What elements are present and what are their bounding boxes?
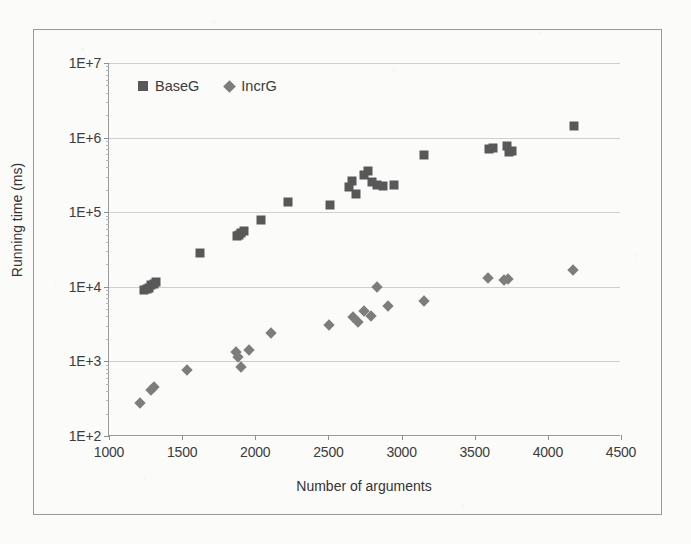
y-tick-minor (106, 160, 109, 161)
data-point-baseg (363, 167, 372, 176)
x-tick-mark (182, 435, 183, 440)
gridline-y (109, 212, 620, 213)
y-tick-minor (106, 102, 109, 103)
data-point-incrg (323, 320, 334, 331)
data-point-baseg (325, 200, 334, 209)
gridline-y (109, 63, 620, 64)
y-tick-minor (106, 70, 109, 71)
x-tick-mark (109, 435, 110, 440)
data-point-baseg (570, 121, 579, 130)
y-tick-minor (106, 400, 109, 401)
x-axis-title: Number of arguments (108, 478, 620, 494)
x-tick-label: 3500 (460, 444, 490, 460)
y-tick-minor (106, 365, 109, 366)
square-marker-icon (138, 81, 148, 91)
y-tick-minor (106, 339, 109, 340)
y-tick-minor (106, 141, 109, 142)
data-point-baseg (257, 216, 266, 225)
x-tick-label: 2000 (240, 444, 270, 460)
y-tick-minor (106, 298, 109, 299)
y-tick-minor (106, 303, 109, 304)
x-tick-mark (548, 435, 549, 440)
gridline-y (109, 361, 620, 362)
y-tick-minor (106, 316, 109, 317)
y-tick-mark (104, 287, 109, 288)
y-tick-minor (106, 167, 109, 168)
y-tick-minor (106, 242, 109, 243)
x-tick-label: 4000 (533, 444, 563, 460)
y-tick-minor (106, 294, 109, 295)
data-point-baseg (284, 198, 293, 207)
legend-entry-incrg: IncrG (225, 78, 276, 94)
gridline-y (109, 138, 620, 139)
diamond-marker-icon (223, 80, 236, 93)
y-tick-minor (106, 373, 109, 374)
data-point-incrg (244, 345, 255, 356)
y-tick-minor (106, 177, 109, 178)
data-point-baseg (239, 226, 248, 235)
data-point-incrg (372, 282, 383, 293)
y-tick-minor (106, 154, 109, 155)
y-tick-mark (104, 138, 109, 139)
y-tick-label: 1E+6 (69, 130, 101, 146)
data-point-baseg (151, 278, 160, 287)
y-tick-minor (106, 80, 109, 81)
data-point-incrg (181, 365, 192, 376)
y-tick-mark (104, 212, 109, 213)
chart-legend: BaseGIncrG (138, 78, 277, 94)
gridline-y (109, 287, 620, 288)
x-tick-label: 2500 (313, 444, 343, 460)
data-point-baseg (347, 176, 356, 185)
y-tick-minor (106, 414, 109, 415)
chart-page: Running time (ms) Number of arguments 1E… (0, 0, 691, 544)
y-tick-label: 1E+5 (69, 204, 101, 220)
data-point-incrg (382, 300, 393, 311)
data-point-baseg (508, 147, 517, 156)
y-tick-label: 1E+7 (69, 55, 101, 71)
y-tick-minor (106, 149, 109, 150)
data-point-baseg (419, 151, 428, 160)
y-tick-minor (106, 66, 109, 67)
x-tick-mark (328, 435, 329, 440)
data-point-baseg (489, 144, 498, 153)
y-tick-minor (106, 251, 109, 252)
y-tick-mark (104, 63, 109, 64)
data-point-incrg (235, 361, 246, 372)
data-point-incrg (135, 397, 146, 408)
x-tick-mark (621, 435, 622, 440)
data-point-incrg (568, 264, 579, 275)
data-point-baseg (379, 181, 388, 190)
y-tick-minor (106, 219, 109, 220)
y-tick-minor (106, 378, 109, 379)
y-tick-minor (106, 93, 109, 94)
x-tick-label: 1500 (167, 444, 197, 460)
y-tick-minor (106, 216, 109, 217)
data-point-incrg (418, 295, 429, 306)
plot-area: 1E+21E+31E+41E+51E+61E+7 100015002000250… (108, 63, 620, 436)
x-tick-label: 3000 (386, 444, 416, 460)
data-point-incrg (482, 273, 493, 284)
data-point-incrg (266, 327, 277, 338)
x-tick-mark (475, 435, 476, 440)
y-tick-mark (104, 361, 109, 362)
x-tick-label: 1000 (94, 444, 124, 460)
y-tick-minor (106, 384, 109, 385)
y-tick-minor (106, 75, 109, 76)
y-tick-minor (106, 115, 109, 116)
y-tick-label: 1E+3 (69, 353, 101, 369)
legend-label: BaseG (155, 78, 199, 94)
legend-label: IncrG (241, 78, 276, 94)
data-point-baseg (390, 181, 399, 190)
y-tick-minor (106, 85, 109, 86)
y-tick-minor (106, 290, 109, 291)
y-tick-minor (106, 309, 109, 310)
y-tick-label: 1E+2 (69, 428, 101, 444)
y-tick-label: 1E+4 (69, 279, 101, 295)
y-tick-minor (106, 224, 109, 225)
y-tick-minor (106, 145, 109, 146)
y-tick-minor (106, 235, 109, 236)
x-tick-mark (402, 435, 403, 440)
y-tick-minor (106, 190, 109, 191)
x-tick-label: 4500 (606, 444, 636, 460)
legend-entry-baseg: BaseG (138, 78, 199, 94)
